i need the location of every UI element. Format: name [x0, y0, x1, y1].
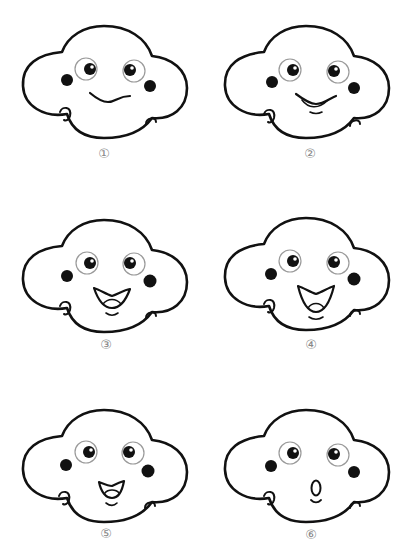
cloud-face-1-drawing	[4, 6, 204, 156]
cloud-face-1: ①	[4, 6, 204, 181]
cheek-right	[144, 80, 156, 92]
eye-right	[123, 253, 145, 275]
eye-right	[327, 61, 349, 83]
cheek-left	[60, 459, 72, 471]
cloud-outline	[225, 218, 389, 330]
cloud-outline	[225, 410, 389, 522]
cheek-left	[266, 76, 278, 88]
eye-right	[327, 444, 349, 466]
cheek-left	[265, 268, 277, 280]
cloud-face-5-drawing	[4, 390, 204, 540]
eye-left	[75, 441, 97, 463]
cloud-face-4-drawing	[206, 198, 406, 348]
cloud-outline	[23, 26, 187, 138]
cheek-right	[348, 466, 360, 478]
cheek-right	[144, 275, 157, 288]
cheek-right	[142, 465, 155, 478]
chin-curl-right	[350, 120, 360, 126]
cloud-face-3: ③	[4, 200, 204, 375]
eye-left	[76, 252, 98, 274]
cloud-face-2-drawing	[206, 6, 406, 156]
cheek-left	[61, 74, 73, 86]
eye-left	[75, 58, 97, 80]
cheek-left	[61, 270, 73, 282]
cloud-face-6: ⑥	[206, 390, 406, 553]
eye-left	[279, 250, 301, 272]
chin-curl-right	[350, 502, 360, 508]
cloud-face-4: ④	[206, 198, 406, 373]
face-label-6: ⑥	[211, 527, 407, 542]
cloud-face-2: ②	[206, 6, 406, 181]
cloud-face-6-drawing	[206, 390, 406, 540]
cloud-outline	[225, 26, 389, 138]
cheek-left	[265, 460, 277, 472]
face-label-3: ③	[6, 337, 206, 352]
chin-curl-right	[350, 310, 360, 316]
cloud-outline	[23, 220, 187, 332]
cloud-outline	[23, 410, 187, 522]
face-label-2: ②	[210, 146, 407, 161]
eye-right	[122, 442, 144, 464]
cheek-right	[348, 273, 361, 286]
face-label-5: ⑤	[6, 526, 206, 541]
face-label-4: ④	[211, 337, 407, 352]
eye-left	[279, 442, 301, 464]
face-label-1: ①	[4, 146, 204, 161]
eye-right	[327, 252, 349, 274]
eye-left	[279, 59, 301, 81]
cloud-face-5: ⑤	[4, 390, 204, 553]
eye-right	[123, 60, 145, 82]
cloud-face-3-drawing	[4, 200, 204, 350]
cheek-right	[348, 82, 360, 94]
